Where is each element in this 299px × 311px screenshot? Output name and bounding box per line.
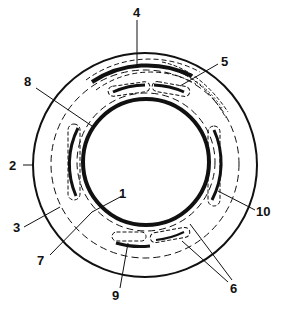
label-10: 10 [256,204,270,219]
label-1: 1 [119,186,126,201]
inner-thick-ring [83,99,209,225]
left-segment [68,124,80,200]
upper-inner-segments [108,81,191,97]
label-3: 3 [13,220,20,235]
ring-cross-section-diagram: 4 5 8 2 3 1 7 9 6 10 [0,0,299,311]
label-5: 5 [221,54,228,69]
label-6: 6 [230,281,237,296]
label-4: 4 [133,5,141,20]
label-2: 2 [9,158,16,173]
outer-ring [33,53,257,277]
inner-dashed-ring [77,93,215,231]
bottom-segments [112,227,191,247]
label-9: 9 [112,288,119,303]
label-7: 7 [37,253,44,268]
label-8: 8 [24,74,31,89]
